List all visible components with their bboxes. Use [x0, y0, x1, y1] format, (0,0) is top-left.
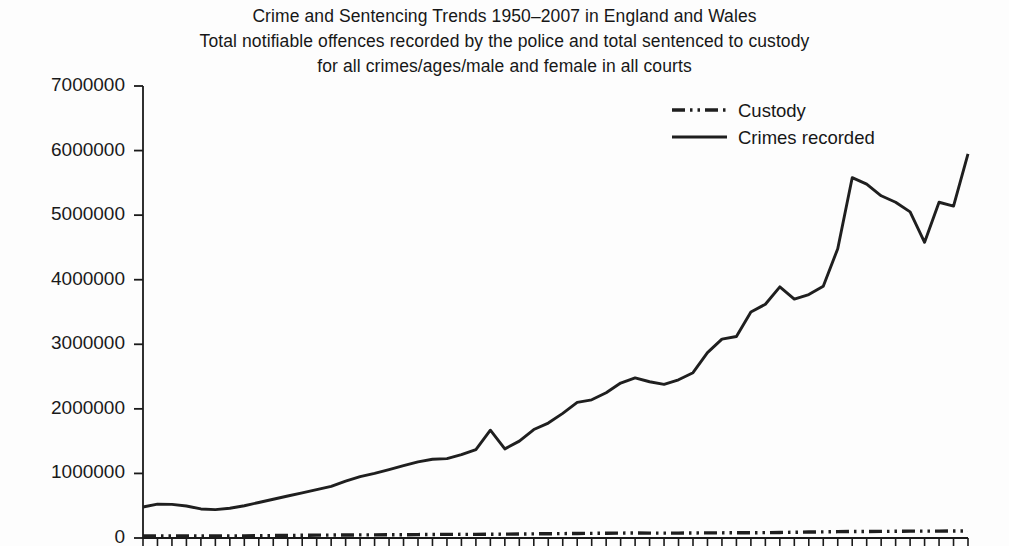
y-tick-group [134, 86, 143, 538]
y-tick-label: 0 [0, 526, 125, 546]
y-tick-label: 7000000 [0, 74, 125, 96]
y-tick-label: 3000000 [0, 332, 125, 354]
y-tick-label: 2000000 [0, 397, 125, 419]
legend-line-samples [672, 110, 727, 137]
y-tick-label: 6000000 [0, 139, 125, 161]
chart-plot-area [0, 0, 1009, 546]
chart-figure: Crime and Sentencing Trends 1950–2007 in… [0, 0, 1009, 546]
legend-label-custody: Custody [738, 100, 806, 122]
legend-label-crimes-recorded: Crimes recorded [738, 127, 875, 149]
axis-group [143, 86, 968, 538]
y-tick-label: 5000000 [0, 203, 125, 225]
series-line-custody [143, 531, 968, 536]
y-tick-label: 1000000 [0, 461, 125, 483]
data-series-group [143, 154, 968, 536]
series-line-crimes-recorded [143, 154, 968, 510]
x-tick-group [143, 538, 968, 546]
y-tick-label: 4000000 [0, 268, 125, 290]
